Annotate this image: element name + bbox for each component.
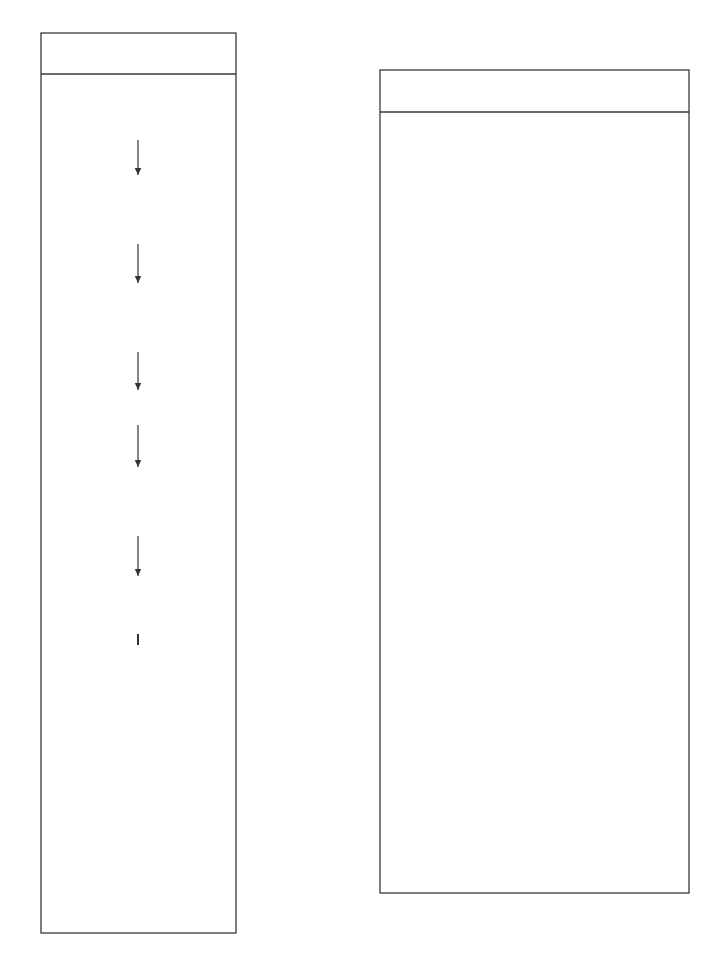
pool-b-frame — [380, 70, 689, 893]
bpmn-diagram-canvas — [0, 0, 705, 965]
pool-organization-b[interactable] — [380, 70, 689, 893]
